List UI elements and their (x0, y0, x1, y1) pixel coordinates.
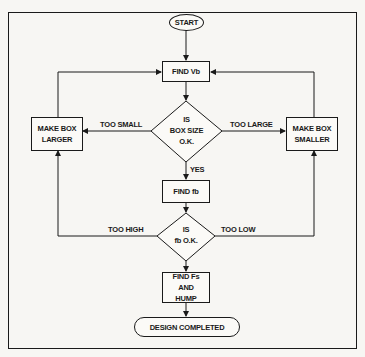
edge-label-too-low: TOO LOW (221, 225, 255, 235)
make-box-smaller-line-1: MAKE BOX (293, 123, 332, 134)
find-fb-label: FIND fb (173, 186, 198, 197)
find-vb-node: FIND Vb (162, 61, 210, 82)
design-completed-node: DESIGN COMPLETED (134, 317, 240, 337)
make-box-larger-node: MAKE BOX LARGER (31, 117, 83, 151)
decision-fb-line-2: fb O.K. (174, 235, 197, 246)
make-box-larger-line-1: MAKE BOX (38, 123, 77, 134)
find-fs-hump-line-3: HUMP (175, 293, 196, 304)
edge-label-yes: YES (190, 165, 204, 175)
edge-label-too-high: TOO HIGH (108, 225, 143, 235)
edge-label-too-large: TOO LARGE (230, 120, 273, 130)
find-fs-hump-line-2: AND (178, 282, 194, 293)
find-fs-hump-node: FIND Fs AND HUMP (162, 272, 210, 303)
make-box-larger-line-2: LARGER (42, 134, 72, 145)
decision-box-size-text: IS BOX SIZE O.K. (151, 112, 222, 148)
decision-fb-line-1: IS (183, 224, 190, 235)
decision-fb-text: IS fb O.K. (157, 222, 215, 248)
start-label: START (175, 17, 198, 28)
edge-label-too-small: TOO SMALL (100, 120, 142, 130)
find-fb-node: FIND fb (162, 180, 210, 203)
decision-box-size-line-3: O.K. (179, 136, 194, 147)
make-box-smaller-line-2: SMALLER (295, 134, 330, 145)
decision-box-size-line-1: IS (183, 114, 190, 125)
find-vb-label: FIND Vb (172, 66, 200, 77)
make-box-smaller-node: MAKE BOX SMALLER (286, 117, 338, 151)
find-fs-hump-line-1: FIND Fs (173, 271, 200, 282)
start-node: START (169, 14, 204, 31)
decision-box-size-line-2: BOX SIZE (170, 125, 203, 136)
design-completed-label: DESIGN COMPLETED (150, 322, 225, 333)
